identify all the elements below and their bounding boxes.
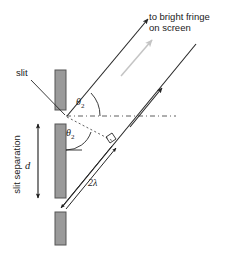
top-barrier xyxy=(55,70,66,110)
diagram-canvas xyxy=(0,0,229,254)
path-difference-return-line xyxy=(61,146,112,208)
theta-upper-label: θ2 xyxy=(76,96,84,110)
slit-separation-label: slit separation xyxy=(12,126,23,202)
path-difference-label: 2λ xyxy=(88,177,97,189)
lower-ray-arrowhead-segment xyxy=(130,88,162,127)
bottom-barrier xyxy=(55,212,66,245)
to-bright-fringe-line2: on screen xyxy=(149,22,191,33)
middle-barrier xyxy=(55,124,66,198)
to-bright-fringe-label: to bright fringeon screen xyxy=(149,12,210,34)
double-slit-diagram: to bright fringeon screen slit slit sepa… xyxy=(0,0,229,254)
separation-symbol-label: d xyxy=(25,160,30,172)
theta-lower-label: θ2 xyxy=(66,127,74,141)
barrier-group xyxy=(55,70,66,245)
to-bright-fringe-line1: to bright fringe xyxy=(149,11,210,22)
theta-lower-subscript: 2 xyxy=(71,133,75,141)
slit-label: slit xyxy=(16,68,28,79)
theta-upper-subscript: 2 xyxy=(81,102,85,110)
theta-upper-arc xyxy=(91,93,100,116)
